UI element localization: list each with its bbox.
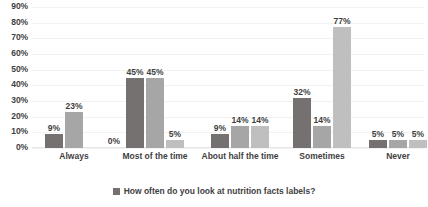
y-axis-tick-label: 90% [11, 2, 28, 11]
bar-wrapper: 32% [293, 7, 311, 148]
bar[interactable] [146, 78, 164, 149]
bar-value-label: 14% [251, 116, 268, 125]
gridline [32, 148, 424, 149]
bars: 9%23%0% [35, 7, 113, 148]
bar[interactable] [333, 27, 351, 148]
bar-wrapper: 0% [85, 7, 103, 148]
bar-wrapper: 14% [231, 7, 249, 148]
chart-legend: How often do you look at nutrition facts… [0, 186, 428, 196]
bars: 45%45%5% [116, 7, 194, 148]
bar-value-label: 14% [313, 116, 330, 125]
bar[interactable] [211, 134, 229, 148]
bar[interactable] [369, 140, 387, 148]
x-axis-category-label: About half the time [197, 151, 283, 162]
bar-value-label: 9% [214, 124, 226, 133]
bar-value-label: 5% [372, 130, 384, 139]
bar-wrapper: 14% [313, 7, 331, 148]
bar-wrapper: 5% [369, 7, 387, 148]
bar-wrapper: 14% [251, 7, 269, 148]
bar-value-label: 32% [293, 88, 310, 97]
bar-wrapper: 23% [65, 7, 83, 148]
y-axis-tick-label: 50% [11, 65, 28, 74]
y-axis-tick-label: 10% [11, 127, 28, 136]
bar[interactable] [313, 126, 331, 148]
x-axis-category-label: Never [355, 151, 428, 162]
bar[interactable] [65, 112, 83, 148]
y-axis-tick-label: 20% [11, 112, 28, 121]
bar-value-label: 77% [333, 17, 350, 26]
bar-wrapper: 5% [166, 7, 184, 148]
bar-value-label: 5% [392, 130, 404, 139]
y-axis-tick-label: 60% [11, 49, 28, 58]
y-axis-tick-label: 30% [11, 96, 28, 105]
bar-group: 9%14%14% [201, 7, 279, 148]
plot-area: 9%23%0%45%45%5%9%14%14%32%14%77%5%5%5% [32, 7, 424, 148]
x-axis-category-label: Sometimes [279, 151, 365, 162]
bar-value-label: 23% [65, 102, 82, 111]
bar-value-label: 45% [126, 68, 143, 77]
bar[interactable] [409, 140, 427, 148]
y-axis: 0%10%20%30%40%50%60%70%80%90% [0, 0, 30, 156]
bar-chart: 0%10%20%30%40%50%60%70%80%90% 9%23%0%45%… [0, 0, 428, 207]
bar-wrapper: 5% [389, 7, 407, 148]
x-axis: AlwaysMost of the timeAbout half the tim… [32, 151, 424, 179]
bar-wrapper: 45% [126, 7, 144, 148]
y-axis-tick-label: 0% [16, 143, 28, 152]
bar-wrapper: 9% [45, 7, 63, 148]
bar[interactable] [45, 134, 63, 148]
bar-value-label: 9% [48, 124, 60, 133]
bar-wrapper: 77% [333, 7, 351, 148]
bar-value-label: 5% [412, 130, 424, 139]
bar-group: 32%14%77% [283, 7, 361, 148]
bar[interactable] [251, 126, 269, 148]
bar[interactable] [389, 140, 407, 148]
bar-value-label: 5% [169, 130, 181, 139]
bar-value-label: 45% [146, 68, 163, 77]
x-axis-category-label: Most of the time [112, 151, 198, 162]
bar-group: 9%23%0% [35, 7, 113, 148]
legend-swatch-icon [113, 188, 120, 195]
bars: 32%14%77% [283, 7, 361, 148]
bar-wrapper: 5% [409, 7, 427, 148]
bars: 5%5%5% [359, 7, 428, 148]
bar-value-label: 14% [231, 116, 248, 125]
bar-group: 45%45%5% [116, 7, 194, 148]
bar[interactable] [166, 140, 184, 148]
bars: 9%14%14% [201, 7, 279, 148]
bar-group: 5%5%5% [359, 7, 428, 148]
y-axis-tick-label: 80% [11, 18, 28, 27]
bar[interactable] [293, 98, 311, 148]
bar-wrapper: 45% [146, 7, 164, 148]
bar[interactable] [126, 78, 144, 149]
bar-wrapper: 9% [211, 7, 229, 148]
x-axis-category-label: Always [31, 151, 117, 162]
y-axis-tick-label: 70% [11, 33, 28, 42]
bar[interactable] [231, 126, 249, 148]
y-axis-tick-label: 40% [11, 80, 28, 89]
legend-label: How often do you look at nutrition facts… [124, 186, 316, 196]
legend-item[interactable]: How often do you look at nutrition facts… [113, 186, 316, 196]
